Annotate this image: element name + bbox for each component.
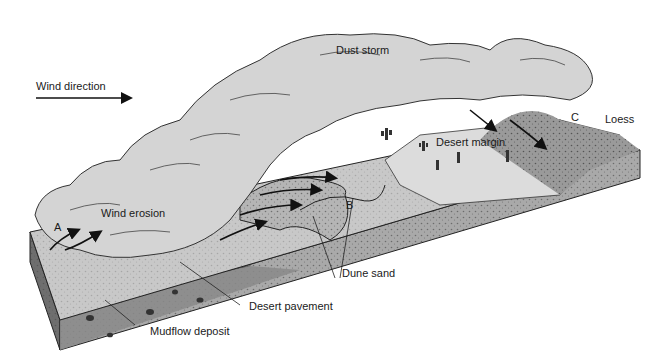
label-dust-storm: Dust storm (336, 45, 389, 56)
label-point-b: B (346, 200, 353, 211)
label-loess: Loess (605, 114, 634, 125)
label-desert-pavement: Desert pavement (249, 301, 333, 312)
label-dune-sand: Dune sand (342, 268, 395, 279)
label-wind-direction: Wind direction (36, 81, 106, 92)
desert-block-diagram (0, 0, 670, 358)
label-desert-margin: Desert margin (436, 137, 505, 148)
label-mudflow-deposit: Mudflow deposit (150, 326, 230, 337)
label-wind-erosion: Wind erosion (101, 208, 165, 219)
label-point-a: A (54, 222, 61, 233)
label-point-c: C (571, 112, 579, 123)
